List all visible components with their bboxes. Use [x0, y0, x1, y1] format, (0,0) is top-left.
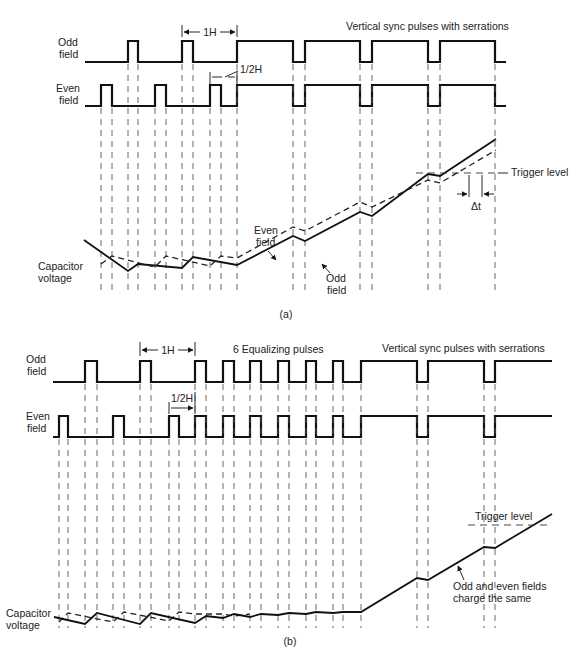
even-field-waveform: [53, 416, 552, 437]
timing-guides: [101, 64, 495, 290]
odd-field-waveform: [85, 41, 506, 62]
charge-note-2: charge the same: [453, 592, 531, 604]
even-field-curve-label-2: field: [256, 236, 275, 248]
half-h-label: 1/2H: [240, 63, 262, 75]
one-h-label: 1H: [203, 26, 216, 38]
even-field-label: Even: [26, 410, 50, 422]
odd-field-label-2: field: [27, 365, 46, 377]
trigger-level-label: Trigger level: [475, 510, 532, 522]
even-field-label-2: field: [27, 422, 46, 434]
odd-field-curve-label-2: field: [327, 284, 346, 296]
even-field-curve-label: Even: [254, 224, 278, 236]
odd-field-capacitor-curve: [84, 139, 496, 271]
capacitor-curve: [54, 514, 552, 624]
charge-note: Odd and even fields: [453, 580, 546, 592]
delta-t-label: Δt: [471, 200, 481, 212]
odd-field-waveform: [53, 361, 552, 382]
trigger-level-label: Trigger level: [511, 166, 568, 178]
capacitor-voltage-label: Capacitor: [6, 607, 51, 619]
capacitor-voltage-label: Capacitor: [38, 260, 83, 272]
figure-b: Odd field Even field Capacitor voltage 6…: [6, 342, 552, 647]
figure-a: Odd field Even field Capacitor voltage V…: [38, 20, 568, 320]
half-h-label: 1/2H: [171, 392, 193, 404]
caption-b: (b): [284, 635, 297, 647]
even-field-label-2: field: [59, 94, 78, 106]
vsync-title: Vertical sync pulses with serrations: [382, 342, 545, 354]
vsync-title: Vertical sync pulses with serrations: [346, 20, 509, 32]
odd-field-curve-label: Odd: [326, 272, 346, 284]
odd-field-label-2: field: [59, 48, 78, 60]
capacitor-voltage-label-2: voltage: [38, 272, 72, 284]
equalizing-title: 6 Equalizing pulses: [233, 343, 323, 355]
one-h-label: 1H: [161, 344, 174, 356]
even-field-label: Even: [56, 82, 80, 94]
odd-field-label: Odd: [26, 353, 46, 365]
odd-field-label: Odd: [58, 36, 78, 48]
even-field-waveform: [85, 85, 506, 106]
sync-separator-diagram: Odd field Even field Capacitor voltage V…: [0, 0, 582, 667]
even-field-capacitor-curve: [101, 150, 496, 267]
capacitor-voltage-label-2: voltage: [6, 619, 40, 631]
caption-a: (a): [280, 308, 293, 320]
